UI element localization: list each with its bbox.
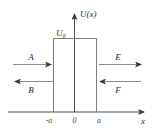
figure-canvas: U(x) x U0 -a 0 a A B E F	[0, 0, 156, 135]
wave-label-transmitted: E	[114, 52, 121, 62]
tick-label-a: a	[97, 116, 101, 125]
y-axis-label: U(x)	[80, 9, 97, 19]
barrier-height-label: U0	[56, 28, 66, 39]
tick-label-origin: 0	[73, 116, 77, 125]
wave-label-incident: A	[27, 52, 34, 62]
wave-label-reflected: B	[28, 85, 34, 95]
x-axis-label: x	[140, 116, 145, 126]
barrier-outline	[54, 39, 97, 113]
wave-label-return: F	[114, 85, 121, 95]
tick-label-minus-a: -a	[46, 116, 53, 125]
potential-barrier-figure: U(x) x U0 -a 0 a A B E F	[0, 0, 156, 135]
barrier-height-subscript: 0	[63, 33, 66, 39]
